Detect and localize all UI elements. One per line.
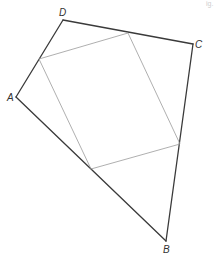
- inner-edge-bottom: [91, 144, 180, 169]
- label-D: D: [59, 7, 66, 18]
- quadrilateral-diagram: ig. D C A B: [0, 0, 224, 262]
- edge-DC: [63, 20, 193, 44]
- label-B: B: [163, 244, 170, 255]
- outer-quadrilateral: [16, 20, 193, 241]
- midpoint-parallelogram: [39, 33, 180, 169]
- label-C: C: [195, 39, 203, 50]
- corner-mark: ig.: [206, 0, 213, 8]
- inner-edge-right: [128, 33, 180, 144]
- label-A: A: [6, 92, 14, 103]
- inner-edge-left: [39, 59, 91, 169]
